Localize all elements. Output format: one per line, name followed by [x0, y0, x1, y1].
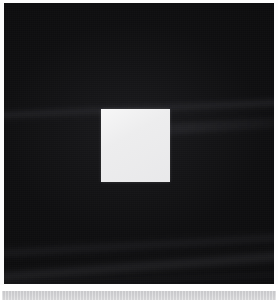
- band-texture-overlay: [2, 291, 276, 300]
- square-sheen-overlay: [101, 109, 170, 182]
- light-streak-lower-c: [4, 267, 274, 284]
- photo-edge-right: [274, 0, 278, 285]
- photo-frame: [0, 0, 278, 300]
- bottom-white-gap: [0, 284, 278, 291]
- bright-square-subject: [101, 109, 170, 182]
- light-streak-lower-b: [4, 243, 274, 284]
- bottom-gray-band: [2, 291, 276, 300]
- photo-edge-left: [0, 0, 4, 285]
- photo-edge-top: [0, 0, 278, 3]
- light-streak-lower-a: [4, 227, 274, 264]
